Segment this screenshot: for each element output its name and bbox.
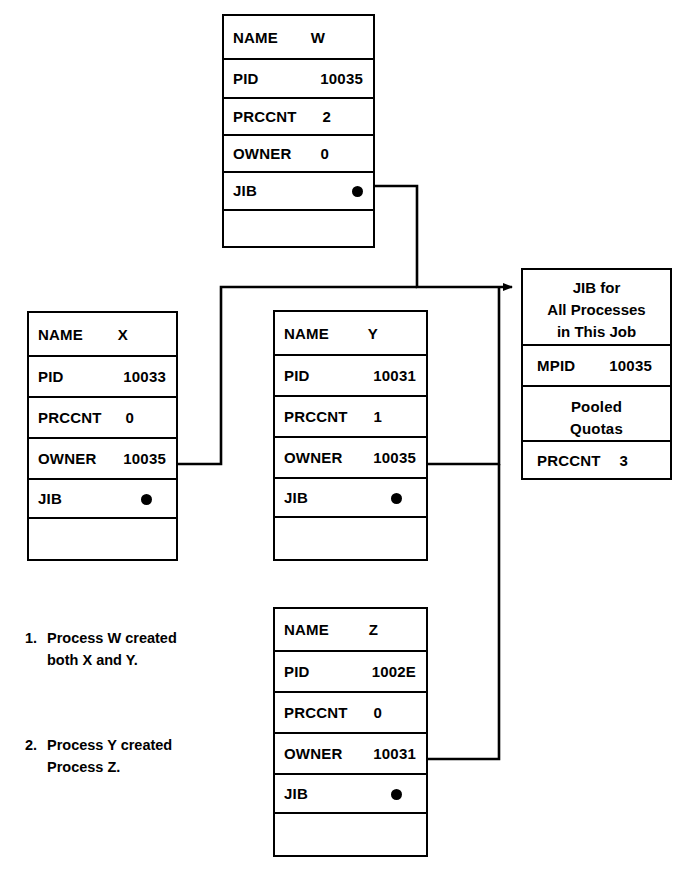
jib-pointer-dot: [391, 493, 402, 504]
pcb-value-name: X: [118, 326, 128, 343]
pcb-key-prccnt: PRCCNT: [38, 409, 102, 426]
pcb-row-owner: OWNER 10031: [275, 734, 426, 775]
jib-pooled-line2: Quotas: [523, 418, 670, 440]
note-2-text: Process Y created Process Z.: [47, 735, 172, 779]
process-box-w: NAME W PID 10035 PRCCNT 2 OWNER 0 JIB: [222, 14, 375, 248]
pcb-value-owner: 10035: [373, 449, 416, 466]
jib-key-mpid: MPID: [537, 357, 575, 374]
pcb-key-owner: OWNER: [38, 450, 97, 467]
pcb-value-prccnt: 0: [125, 409, 134, 426]
process-box-y: NAME Y PID 10031 PRCCNT 1 OWNER 10035 JI…: [273, 310, 428, 561]
pcb-row-name: NAME W: [224, 16, 373, 60]
jib-pooled-line1: Pooled: [523, 396, 670, 418]
process-box-x: NAME X PID 10033 PRCCNT 0 OWNER 10035 JI…: [27, 311, 178, 561]
pcb-row-pid: PID 10031: [275, 356, 426, 397]
pcb-value-pid: 1002E: [372, 663, 416, 680]
jib-key-prccnt: PRCCNT: [537, 452, 601, 469]
pcb-value-owner: 0: [320, 145, 329, 162]
pcb-row-name: NAME Z: [275, 609, 426, 652]
pcb-row-prccnt: PRCCNT 1: [275, 397, 426, 438]
pcb-row-blank: [29, 519, 176, 559]
jib-pointer-dot: [391, 789, 402, 800]
pcb-value-name: W: [311, 29, 325, 46]
jib-header-line2: All Processes: [523, 299, 670, 321]
pcb-key-name: NAME: [284, 621, 329, 638]
pcb-key-prccnt: PRCCNT: [284, 408, 348, 425]
pcb-row-jib: JIB: [224, 173, 373, 210]
pcb-value-pid: 10031: [373, 367, 416, 384]
pcb-row-jib: JIB: [29, 480, 176, 519]
pcb-value-pid: 10035: [320, 70, 363, 87]
process-box-z: NAME Z PID 1002E PRCCNT 0 OWNER 10031 JI…: [273, 607, 428, 857]
pcb-key-pid: PID: [284, 367, 310, 384]
pcb-row-owner: OWNER 0: [224, 136, 373, 173]
pcb-key-pid: PID: [284, 663, 310, 680]
jib-row-prccnt: PRCCNT 3: [523, 442, 670, 478]
pcb-row-name: NAME Y: [275, 312, 426, 356]
pcb-row-jib: JIB: [275, 775, 426, 814]
pcb-row-jib: JIB: [275, 479, 426, 518]
pcb-value-pid: 10033: [123, 368, 166, 385]
pcb-value-prccnt: 0: [373, 704, 382, 721]
pcb-row-blank: [224, 211, 373, 246]
jib-pointer-dot: [141, 494, 152, 505]
jib-row-pooled-quotas: Pooled Quotas: [523, 387, 670, 442]
pcb-key-name: NAME: [233, 29, 278, 46]
jib-pointer-dot: [352, 186, 363, 197]
jib-header-line1: JIB for: [523, 277, 670, 299]
jib-row-mpid: MPID 10035: [523, 346, 670, 387]
pcb-row-owner: OWNER 10035: [275, 438, 426, 479]
pcb-key-jib: JIB: [233, 182, 257, 199]
pcb-value-owner: 10031: [373, 745, 416, 762]
pcb-row-pid: PID 10033: [29, 357, 176, 398]
pcb-row-prccnt: PRCCNT 0: [275, 693, 426, 734]
pcb-key-jib: JIB: [284, 785, 308, 802]
pcb-key-owner: OWNER: [284, 449, 343, 466]
pcb-key-pid: PID: [233, 70, 259, 87]
jib-value-mpid: 10035: [609, 357, 652, 374]
pcb-key-jib: JIB: [284, 489, 308, 506]
pcb-row-name: NAME X: [29, 313, 176, 357]
pcb-value-prccnt: 2: [322, 108, 331, 125]
pcb-key-name: NAME: [38, 326, 83, 343]
pcb-row-pid: PID 1002E: [275, 652, 426, 693]
pcb-key-prccnt: PRCCNT: [233, 108, 297, 125]
pcb-key-name: NAME: [284, 325, 329, 342]
jib-header-line3: in This Job: [523, 321, 670, 343]
pcb-row-pid: PID 10035: [224, 60, 373, 98]
pcb-key-jib: JIB: [38, 490, 62, 507]
pcb-value-name: Z: [369, 621, 378, 638]
pcb-row-prccnt: PRCCNT 2: [224, 99, 373, 136]
note-1-number: 1.: [25, 628, 37, 650]
pcb-value-owner: 10035: [123, 450, 166, 467]
pcb-value-prccnt: 1: [373, 408, 382, 425]
note-2-number: 2.: [25, 735, 37, 757]
pcb-row-prccnt: PRCCNT 0: [29, 398, 176, 439]
pcb-row-blank: [275, 814, 426, 855]
jib-value-prccnt: 3: [619, 452, 628, 469]
note-1-text: Process W created both X and Y.: [47, 628, 177, 672]
pcb-key-pid: PID: [38, 368, 64, 385]
pcb-key-owner: OWNER: [284, 745, 343, 762]
pcb-row-owner: OWNER 10035: [29, 439, 176, 480]
jib-header: JIB for All Processes in This Job: [523, 270, 670, 346]
jib-box: JIB for All Processes in This Job MPID 1…: [521, 268, 672, 480]
diagram-canvas: NAME W PID 10035 PRCCNT 2 OWNER 0 JIB NA…: [0, 0, 700, 872]
pcb-row-blank: [275, 518, 426, 559]
pcb-key-owner: OWNER: [233, 145, 292, 162]
pcb-key-prccnt: PRCCNT: [284, 704, 348, 721]
pcb-value-name: Y: [368, 325, 378, 342]
